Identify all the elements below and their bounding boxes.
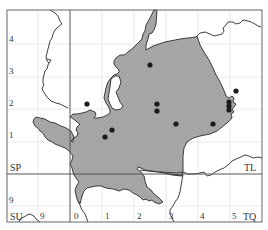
x-label-1: 1 bbox=[105, 211, 110, 221]
x-label-2: 2 bbox=[137, 211, 142, 221]
y-label-4: 4 bbox=[9, 34, 14, 44]
x-label-3: 3 bbox=[169, 211, 174, 221]
x-label-5: 5 bbox=[232, 211, 237, 221]
y-label-3: 3 bbox=[9, 66, 14, 76]
record-dot bbox=[109, 127, 114, 132]
record-dot bbox=[102, 134, 107, 139]
grid-square-tl: TL bbox=[244, 162, 256, 173]
y-label-1: 1 bbox=[9, 130, 14, 140]
record-dot bbox=[226, 107, 231, 112]
y-label-9: 9 bbox=[9, 195, 14, 205]
record-dot bbox=[233, 88, 238, 93]
record-dot bbox=[173, 121, 178, 126]
x-label-9: 9 bbox=[40, 211, 45, 221]
y-label-2: 2 bbox=[9, 98, 14, 108]
x-label-0: 0 bbox=[74, 211, 79, 221]
grid-square-sp: SP bbox=[10, 162, 22, 173]
distribution-map: 4 3 2 1 9 9 0 1 2 3 4 5 SP TL SU TQ bbox=[0, 0, 268, 230]
county-region bbox=[33, 10, 236, 204]
grid-square-tq: TQ bbox=[243, 211, 257, 222]
record-dot bbox=[210, 121, 215, 126]
record-dot bbox=[147, 62, 152, 67]
record-dot bbox=[84, 101, 89, 106]
record-dot bbox=[154, 108, 159, 113]
grid-square-su: SU bbox=[10, 211, 24, 222]
record-dot bbox=[154, 101, 159, 106]
x-label-4: 4 bbox=[200, 211, 205, 221]
